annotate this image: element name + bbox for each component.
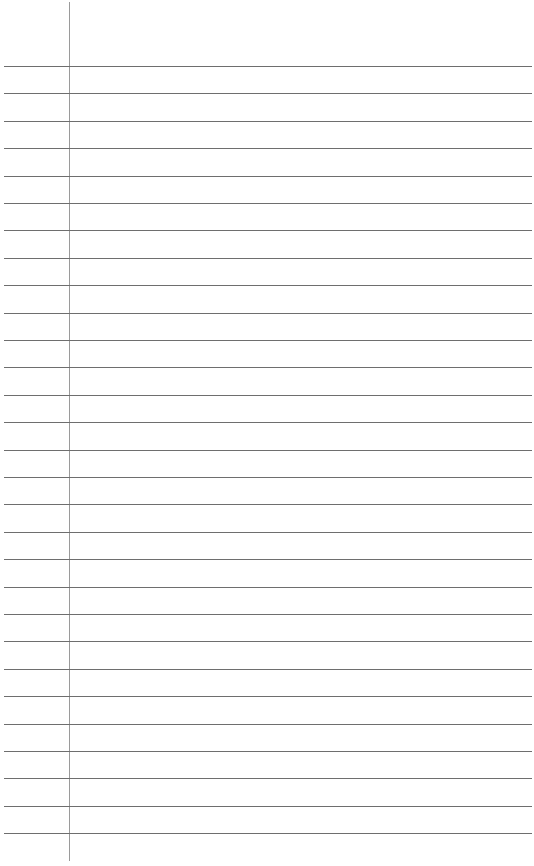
ruled-line bbox=[4, 751, 532, 752]
ruled-line bbox=[4, 395, 532, 396]
ruled-line bbox=[4, 121, 532, 122]
ruled-line bbox=[4, 614, 532, 615]
ruled-line bbox=[4, 176, 532, 177]
ruled-line bbox=[4, 778, 532, 779]
ruled-line bbox=[4, 258, 532, 259]
ruled-line bbox=[4, 450, 532, 451]
margin-line bbox=[69, 2, 70, 861]
ruled-line bbox=[4, 833, 532, 834]
ruled-line bbox=[4, 806, 532, 807]
ruled-line bbox=[4, 724, 532, 725]
ruled-line bbox=[4, 93, 532, 94]
ruled-line bbox=[4, 669, 532, 670]
ruled-line bbox=[4, 477, 532, 478]
ruled-line bbox=[4, 587, 532, 588]
ruled-line bbox=[4, 285, 532, 286]
notebook-page bbox=[0, 0, 534, 866]
ruled-line bbox=[4, 422, 532, 423]
ruled-line bbox=[4, 559, 532, 560]
ruled-line bbox=[4, 230, 532, 231]
ruled-line bbox=[4, 203, 532, 204]
ruled-line bbox=[4, 696, 532, 697]
ruled-line bbox=[4, 532, 532, 533]
ruled-line bbox=[4, 313, 532, 314]
ruled-line bbox=[4, 504, 532, 505]
ruled-line bbox=[4, 340, 532, 341]
ruled-line bbox=[4, 641, 532, 642]
ruled-line bbox=[4, 367, 532, 368]
ruled-line bbox=[4, 148, 532, 149]
ruled-line bbox=[4, 66, 532, 67]
